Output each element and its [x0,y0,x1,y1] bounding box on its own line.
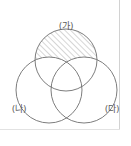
label-top: (가) [59,21,73,31]
venn-diagram-svg: (가) (나) (다) [0,0,131,146]
label-bottom-left: (나) [12,104,26,114]
venn-diagram-figure: (가) (나) (다) [0,0,131,146]
label-bottom-right: (다) [105,104,119,114]
